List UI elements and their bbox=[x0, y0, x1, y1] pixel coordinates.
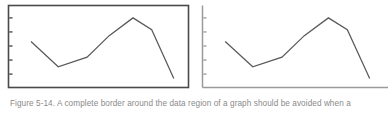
chart-panel-bordered bbox=[0, 0, 196, 95]
data-series-line bbox=[31, 18, 174, 79]
figure-container: Figure 5-14. A complete border around th… bbox=[0, 0, 390, 119]
data-series-line bbox=[225, 18, 369, 79]
y-axis-ticks bbox=[9, 18, 12, 74]
figure-caption: Figure 5-14. A complete border around th… bbox=[10, 98, 386, 109]
open-axes-graph-svg bbox=[196, 0, 390, 95]
figure-panels bbox=[0, 0, 390, 95]
bordered-graph-svg bbox=[0, 0, 196, 95]
chart-panel-open-axes bbox=[196, 0, 390, 95]
y-axis-ticks bbox=[203, 18, 206, 74]
